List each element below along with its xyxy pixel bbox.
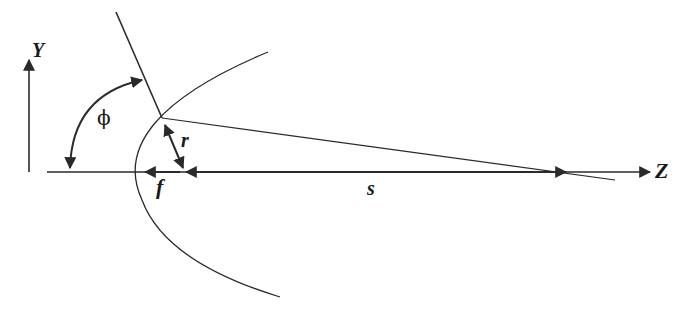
slanted-ray-line	[116, 12, 162, 118]
y-axis-label: Y	[32, 40, 44, 60]
reflected-ray-line	[162, 118, 615, 180]
r-radius-label: r	[181, 130, 189, 150]
diagram-canvas	[0, 0, 694, 313]
s-distance-label: s	[367, 178, 375, 198]
f-focal-label: f	[156, 176, 163, 198]
phi-angle-label: ϕ	[97, 108, 111, 128]
z-axis-label: Z	[655, 160, 668, 182]
